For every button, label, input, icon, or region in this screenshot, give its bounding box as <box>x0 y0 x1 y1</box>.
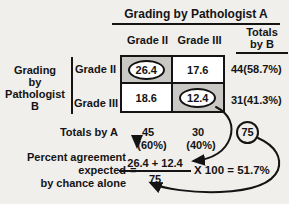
figure-title: Grading by Pathologist A <box>112 8 280 25</box>
row-label-divider-line <box>71 57 73 114</box>
group-label-line: Pathologist <box>4 88 66 100</box>
circled-value-26-4: 26.4 <box>128 60 165 80</box>
cell-grade-iii-grade-ii: 18.6 <box>122 84 173 111</box>
formula-label: Percent agreement expected by chance alo… <box>2 151 126 190</box>
group-label-line: B <box>4 100 66 112</box>
formula-label-line: Percent agreement <box>2 151 126 164</box>
group-label-line: by <box>4 76 66 88</box>
row-total-grade-ii: 44(58.7%) <box>231 63 282 75</box>
formula-denominator: 75 <box>121 173 189 185</box>
cell-agreement-grade-ii: 26.4 <box>122 57 173 84</box>
contingency-table: 26.4 17.6 18.6 12.4 <box>120 55 225 113</box>
group-label-line: Grading <box>4 64 66 76</box>
row-total-grade-iii: 31(41.3%) <box>231 94 282 106</box>
fraction-bar <box>119 170 191 172</box>
col-header-grade-iii: Grade III <box>172 34 227 46</box>
formula-label-line: expected <box>2 164 126 177</box>
formula-label-line: by chance alone <box>2 177 126 190</box>
row-header-grade-iii: Grade III <box>74 97 116 109</box>
circled-value-12-4: 12.4 <box>179 88 216 108</box>
circled-grand-total-75: 75 <box>236 121 259 144</box>
row-header-grade-ii: Grade II <box>74 63 116 75</box>
row-group-label-pathologist-b: Grading by Pathologist B <box>4 64 66 112</box>
percent-agreement-figure: Grading by Pathologist A Grade II Grade … <box>0 0 289 204</box>
formula-result: X 100 = 51.7% <box>194 164 270 176</box>
col-total-grade-ii-value: 45 <box>128 126 168 138</box>
cell-grade-ii-grade-iii: 17.6 <box>173 57 224 84</box>
totals-by-b-header: Totals by B <box>236 26 288 54</box>
col-header-grade-ii: Grade II <box>120 34 175 46</box>
totals-by-a-label: Totals by A <box>58 126 118 138</box>
totals-by-b-line1: Totals <box>236 26 288 38</box>
formula-numerator: 26.4 + 12.4 <box>121 157 189 169</box>
col-total-grade-ii-pct: (60%) <box>129 139 175 151</box>
col-total-grade-iii-value: 30 <box>178 126 218 138</box>
cell-agreement-grade-iii: 12.4 <box>173 84 224 111</box>
totals-by-b-line2: by B <box>236 38 288 50</box>
col-total-grade-iii-pct: (40%) <box>179 139 223 151</box>
